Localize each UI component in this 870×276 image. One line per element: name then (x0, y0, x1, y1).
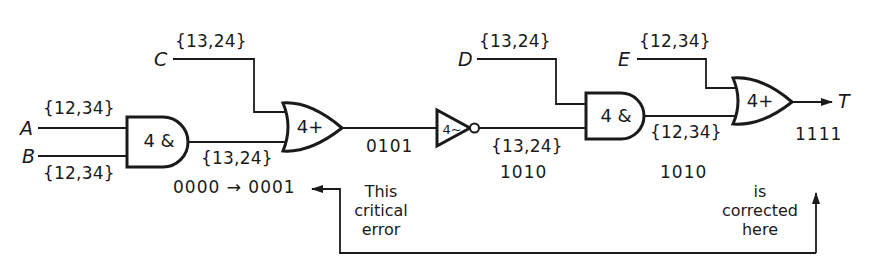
or-gate-1-label: 4+ (288, 118, 332, 136)
inverter-bubble (470, 124, 479, 133)
corrected-here-note-line-1: is (710, 182, 810, 201)
and1-output-set: {13,24} (201, 149, 273, 167)
input-e-set: {12,34} (639, 32, 711, 50)
corrected-here-note: is corrected here (710, 182, 810, 239)
input-d-set: {13,24} (479, 32, 551, 50)
and-gate-1-label: 4 & (135, 132, 183, 150)
and2-output-value: 1010 (660, 163, 707, 181)
or-gate-2-label: 4+ (738, 92, 782, 110)
corrected-here-note-line-2: corrected (710, 201, 810, 220)
input-e-label: E (618, 50, 630, 68)
and-gate-2-label: 4 & (592, 107, 640, 125)
or2-output-value: 1111 (795, 125, 842, 143)
not1-output-set: {13,24} (491, 137, 563, 155)
input-a-set: {12,34} (43, 99, 115, 117)
critical-error-note-line-3: error (346, 220, 416, 239)
input-b-label: B (22, 147, 35, 165)
critical-error-note: This critical error (346, 182, 416, 239)
output-t-label: T (838, 92, 850, 110)
inverter-gate-label: 4~ (437, 121, 467, 139)
input-b-set: {12,34} (43, 164, 115, 182)
critical-error-note-line-2: critical (346, 201, 416, 220)
corrected-here-note-line-3: here (710, 220, 810, 239)
and2-output-set: {12,34} (650, 123, 722, 141)
input-d-label: D (458, 50, 473, 68)
wire-e (637, 59, 737, 88)
wire-d (477, 59, 586, 104)
input-a-label: A (20, 119, 33, 137)
logic-circuit-diagram: 4 & 4+ 4~ 4 & 4+ A B C D E T {12,34} {12… (0, 0, 870, 276)
wire-c (173, 59, 287, 112)
input-c-set: {13,24} (175, 32, 247, 50)
critical-error-note-line-1: This (346, 182, 416, 201)
or1-output-value: 0101 (366, 137, 413, 155)
input-c-label: C (154, 50, 167, 68)
not1-output-value: 1010 (500, 163, 547, 181)
and1-output-value: 0000 → 0001 (173, 178, 296, 196)
